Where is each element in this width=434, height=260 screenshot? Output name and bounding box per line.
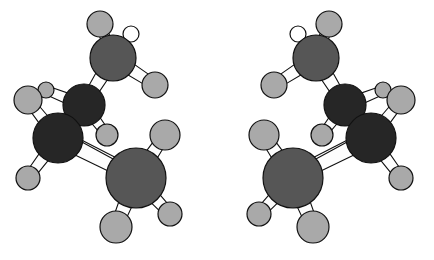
atom-c-r-c3 [346,113,396,163]
atom-h-r-h10 [247,202,271,226]
atom-h-l-h1 [87,11,113,37]
molecule-canvas [0,0,434,260]
atom-h-r-h1 [316,11,342,37]
atom-h-r-h6 [311,124,333,146]
atom-h-r-h2 [261,72,287,98]
atom-h-l-h6 [96,124,118,146]
atom-h-r-h7 [389,166,413,190]
atom-c-l-c4 [106,148,166,208]
atom-c-l-c1 [90,35,136,81]
atom-c-r-c1 [293,35,339,81]
atom-h-l-h7 [16,166,40,190]
atom-h-l-h8 [150,120,180,150]
atom-h-r-h5 [387,86,415,114]
molecule-figure: Two enantiomeric ball-and-stick molecula… [0,0,434,260]
atom-h-l-h9 [100,211,132,243]
atom-h-r-h8 [249,120,279,150]
atom-h-l-h2 [142,72,168,98]
atom-c-r-c4 [263,148,323,208]
atom-h-r-h9 [297,211,329,243]
atom-h-l-h10 [158,202,182,226]
atom-h-l-h5 [14,86,42,114]
atom-c-l-c3 [33,113,83,163]
